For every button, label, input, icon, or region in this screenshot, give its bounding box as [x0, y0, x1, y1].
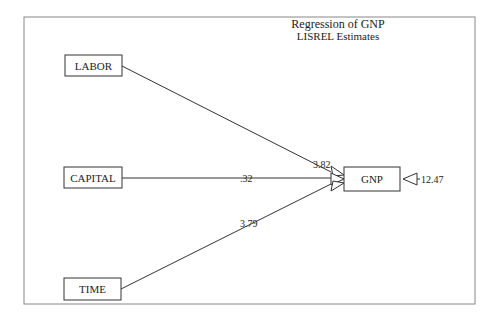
node-labor[interactable]: LABOR — [65, 55, 122, 76]
svg-text:CAPITAL: CAPITAL — [70, 172, 116, 184]
coef-time: 3.79 — [240, 218, 258, 229]
coef-labor: 3.82 — [313, 159, 331, 170]
node-time[interactable]: TIME — [64, 278, 121, 300]
arrowhead-error-icon — [403, 173, 417, 185]
arrowhead-time-icon — [331, 181, 344, 191]
path-diagram: Regression of GNP LISREL Estimates LABOR… — [0, 0, 499, 320]
path-time-gnp — [121, 184, 331, 289]
title-line1: Regression of GNP — [291, 17, 385, 31]
node-gnp[interactable]: GNP — [344, 167, 400, 191]
svg-text:GNP: GNP — [361, 173, 383, 185]
coef-error: 12.47 — [421, 174, 444, 185]
svg-text:TIME: TIME — [79, 283, 106, 295]
svg-text:LABOR: LABOR — [75, 60, 113, 72]
title-line2: LISREL Estimates — [297, 30, 379, 42]
coef-capital: .32 — [240, 173, 253, 184]
node-capital[interactable]: CAPITAL — [64, 167, 122, 188]
path-labor-gnp — [122, 66, 331, 172]
